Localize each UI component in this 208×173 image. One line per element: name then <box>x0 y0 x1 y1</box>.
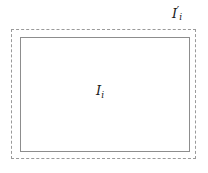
inner-solid-rectangle <box>20 37 190 152</box>
inner-label-subscript: i <box>101 90 104 100</box>
inner-region-label: Ii <box>96 84 104 100</box>
outer-label-subscript: i <box>179 12 182 22</box>
outer-region-label: I′i <box>172 5 182 22</box>
figure-canvas: I′i Ii <box>0 0 208 173</box>
